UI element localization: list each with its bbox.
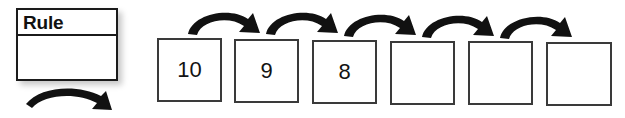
sequence-arrow-1 [186, 6, 268, 36]
sequence-arrow-3 [342, 8, 424, 38]
worksheet-canvas: Rule 10 9 8 [0, 0, 625, 118]
rule-box: Rule [16, 8, 118, 81]
rule-answer-field[interactable] [18, 36, 116, 79]
sequence-arrow-4 [420, 9, 502, 39]
sequence-cell-1-value: 10 [177, 59, 201, 81]
sequence-cell-6[interactable] [546, 42, 612, 106]
sequence-cell-3-value: 8 [338, 61, 350, 83]
sequence-cell-1[interactable]: 10 [157, 38, 222, 102]
rule-label: Rule [23, 13, 63, 32]
sequence-cell-4[interactable] [390, 41, 455, 105]
sequence-arrow-2 [264, 6, 346, 36]
sequence-cell-2-value: 9 [260, 60, 272, 82]
rule-to-sequence-arrow [22, 82, 122, 116]
sequence-cell-3[interactable]: 8 [312, 40, 377, 104]
sequence-arrow-5 [498, 10, 580, 40]
sequence-cell-2[interactable]: 9 [234, 39, 299, 103]
sequence-cell-5[interactable] [468, 41, 533, 105]
rule-label-cell: Rule [18, 10, 116, 36]
